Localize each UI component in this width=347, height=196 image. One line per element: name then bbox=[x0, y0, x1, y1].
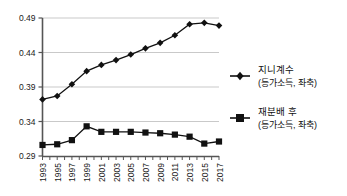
square-marker-icon bbox=[186, 134, 192, 140]
diamond-marker-icon bbox=[98, 62, 105, 69]
series-redistribution bbox=[39, 123, 222, 148]
x-tick-label: 1993 bbox=[38, 163, 48, 182]
square-marker-icon bbox=[54, 141, 60, 147]
y-tick-label: 0.29 bbox=[19, 151, 36, 161]
series-gini bbox=[39, 20, 222, 103]
y-axis-tick-labels: 0.490.440.390.340.29 bbox=[19, 13, 36, 161]
y-tick-label: 0.39 bbox=[19, 82, 36, 92]
diamond-marker-icon bbox=[201, 20, 208, 27]
x-tick-label: 1999 bbox=[82, 163, 92, 182]
diamond-marker-icon bbox=[157, 40, 164, 47]
diamond-marker-icon bbox=[216, 22, 223, 29]
square-marker-icon bbox=[128, 129, 134, 135]
x-tick-label: 1995 bbox=[53, 163, 63, 182]
x-tick-label: 2011 bbox=[170, 163, 180, 182]
square-marker-icon bbox=[84, 123, 90, 129]
y-tick-label: 0.49 bbox=[19, 13, 36, 23]
square-marker-icon bbox=[113, 129, 119, 135]
x-tick-label: 2003 bbox=[112, 163, 122, 182]
square-marker-icon bbox=[39, 142, 45, 148]
y-tick-label: 0.44 bbox=[19, 48, 36, 58]
line-chart: 0.490.440.390.340.29 1993199519971999200… bbox=[0, 0, 347, 196]
x-tick-label: 2013 bbox=[185, 163, 195, 182]
y-tick-label: 0.34 bbox=[19, 117, 36, 127]
x-tick-label: 2001 bbox=[97, 163, 107, 182]
square-marker-icon bbox=[142, 129, 148, 135]
x-tick-label: 2015 bbox=[200, 163, 210, 182]
diamond-marker-icon bbox=[113, 57, 120, 64]
square-marker-icon bbox=[157, 130, 163, 136]
x-tick-label: 2017 bbox=[215, 163, 225, 182]
square-marker-icon bbox=[216, 138, 222, 144]
series-line bbox=[43, 23, 220, 100]
x-tick-label: 2009 bbox=[156, 163, 166, 182]
diamond-marker-icon bbox=[142, 45, 149, 52]
square-marker-icon bbox=[201, 140, 207, 146]
diamond-marker-icon bbox=[39, 96, 46, 103]
square-marker-icon bbox=[69, 137, 75, 143]
x-tick-label: 2007 bbox=[141, 163, 151, 182]
square-marker-icon bbox=[172, 132, 178, 138]
x-axis-tick-labels: 1993199519971999200120032005200720092011… bbox=[38, 163, 225, 182]
square-marker-icon bbox=[98, 129, 104, 135]
x-tick-label: 1997 bbox=[67, 163, 77, 182]
x-tick-label: 2005 bbox=[126, 163, 136, 182]
chart-figure: 0.490.440.390.340.29 1993199519971999200… bbox=[0, 0, 347, 196]
